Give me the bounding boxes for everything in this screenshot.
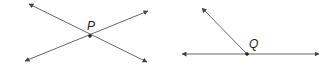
line-1 [29,4,147,62]
ray [202,8,247,54]
point-q [245,52,249,56]
geometry-diagram: P Q [0,0,331,70]
figure-intersecting-lines: P [25,4,148,62]
label-q: Q [249,37,258,51]
label-p: P [87,19,95,33]
figure-ray-on-line: Q [182,8,319,56]
point-p [88,34,92,38]
